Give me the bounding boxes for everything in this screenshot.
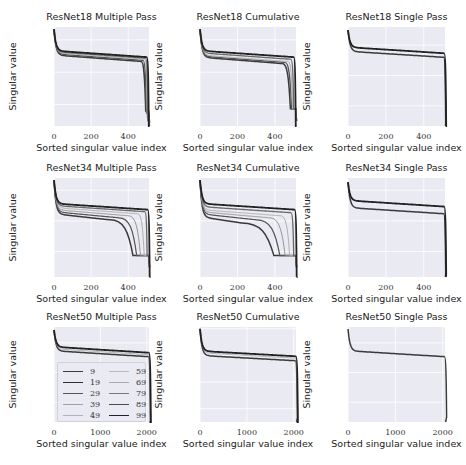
x-tick-label: 200 [374, 132, 398, 141]
x-tick-label: 400 [263, 283, 287, 292]
legend-label: 19 [90, 378, 100, 387]
legend-label: 89 [136, 400, 146, 409]
legend-item: 59 [109, 366, 146, 376]
legend-label: 39 [90, 400, 100, 409]
legend-item: 9 [63, 366, 95, 376]
y-axis-label: Singular value [7, 329, 18, 419]
subplot-title: ResNet18 Multiple Pass [34, 11, 169, 22]
x-tick-label: 400 [116, 283, 140, 292]
y-axis-label: Singular value [153, 182, 164, 272]
plot-area [54, 178, 149, 277]
legend-line-swatch [109, 393, 129, 394]
legend-line-swatch [109, 371, 129, 372]
x-tick-label: 2000 [135, 428, 159, 437]
x-tick-label: 0 [336, 283, 360, 292]
plot-area [200, 327, 296, 422]
x-tick-label: 200 [226, 283, 250, 292]
x-axis-label: Sorted singular value index [318, 142, 466, 153]
y-axis-label: Singular value [301, 182, 312, 272]
legend: 9192939495969798999 [57, 362, 146, 422]
legend-item: 79 [109, 388, 146, 398]
legend-label: 29 [90, 389, 100, 398]
legend-line-swatch [109, 415, 129, 416]
legend-item: 39 [63, 399, 100, 409]
legend-line-swatch [63, 415, 83, 416]
x-tick-label: 2000 [431, 428, 455, 437]
legend-item: 29 [63, 388, 100, 398]
x-tick-label: 0 [336, 132, 360, 141]
legend-line-swatch [109, 382, 129, 383]
x-tick-label: 400 [116, 132, 140, 141]
y-axis-label: Singular value [153, 31, 164, 121]
legend-line-swatch [63, 382, 83, 383]
x-tick-label: 0 [42, 428, 66, 437]
x-tick-label: 200 [226, 132, 250, 141]
x-axis-label: Sorted singular value index [318, 293, 466, 304]
x-tick-label: 1000 [235, 428, 259, 437]
subplot-title: ResNet34 Multiple Pass [34, 162, 169, 173]
subplot-title: ResNet34 Single Pass [328, 162, 465, 173]
x-tick-label: 1000 [383, 428, 407, 437]
x-tick-label: 200 [79, 283, 103, 292]
legend-item: 99 [109, 410, 146, 420]
x-tick-label: 1000 [88, 428, 112, 437]
subplot-title: ResNet50 Single Pass [328, 311, 465, 322]
legend-line-swatch [109, 404, 129, 405]
x-axis-label: Sorted singular value index [24, 293, 179, 304]
x-tick-label: 200 [79, 132, 103, 141]
legend-label: 49 [90, 411, 100, 420]
plot-area [348, 178, 445, 277]
x-axis-label: Sorted singular value index [24, 438, 179, 449]
x-tick-label: 0 [42, 132, 66, 141]
legend-item: 69 [109, 377, 146, 387]
plot-area [348, 327, 445, 422]
x-axis-label: Sorted singular value index [24, 142, 179, 153]
plot-area [348, 27, 445, 126]
subplot-title: ResNet50 Cumulative [180, 311, 316, 322]
x-tick-label: 0 [188, 428, 212, 437]
subplot-title: ResNet50 Multiple Pass [34, 311, 169, 322]
legend-label: 79 [136, 389, 146, 398]
plot-area [200, 27, 296, 126]
plot-area [54, 27, 149, 126]
x-tick-label: 200 [374, 283, 398, 292]
x-tick-label: 400 [412, 132, 436, 141]
x-tick-label: 0 [188, 132, 212, 141]
legend-label: 99 [136, 411, 146, 420]
y-axis-label: Singular value [7, 31, 18, 121]
y-axis-label: Singular value [7, 182, 18, 272]
y-axis-label: Singular value [301, 31, 312, 121]
legend-label: 59 [136, 367, 146, 376]
subplot-title: ResNet18 Single Pass [328, 11, 465, 22]
x-axis-label: Sorted singular value index [170, 438, 326, 449]
x-tick-label: 2000 [282, 428, 306, 437]
x-tick-label: 400 [412, 283, 436, 292]
x-tick-label: 0 [336, 428, 360, 437]
legend-label: 69 [136, 378, 146, 387]
legend-label: 9 [90, 367, 95, 376]
y-axis-label: Singular value [153, 329, 164, 419]
x-axis-label: Sorted singular value index [170, 142, 326, 153]
legend-line-swatch [63, 371, 83, 372]
legend-item: 89 [109, 399, 146, 409]
y-axis-label: Singular value [301, 329, 312, 419]
x-tick-label: 400 [263, 132, 287, 141]
x-tick-label: 0 [188, 283, 212, 292]
x-axis-label: Sorted singular value index [170, 293, 326, 304]
x-tick-label: 0 [42, 283, 66, 292]
plot-area [200, 178, 296, 277]
legend-line-swatch [63, 404, 83, 405]
legend-line-swatch [63, 393, 83, 394]
legend-item: 49 [63, 410, 100, 420]
x-axis-label: Sorted singular value index [318, 438, 466, 449]
legend-item: 19 [63, 377, 100, 387]
subplot-title: ResNet34 Cumulative [180, 162, 316, 173]
subplot-title: ResNet18 Cumulative [180, 11, 316, 22]
